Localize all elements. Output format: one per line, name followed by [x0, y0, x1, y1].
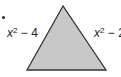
- left-side-label: x2 − 4: [7, 27, 38, 39]
- bullet-dot: [2, 16, 5, 19]
- triangle-figure: x2 − 4 x2 − 2: [0, 0, 121, 77]
- right-side-label: x2 − 2: [94, 27, 121, 39]
